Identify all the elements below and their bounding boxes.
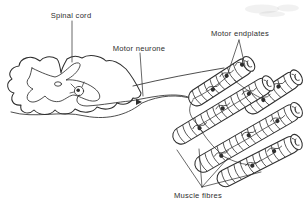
label-motor-neurone: Motor neurone (113, 44, 166, 53)
label-motor-endplates: Motor endplates (211, 29, 269, 38)
label-spinal-cord: Spinal cord (51, 11, 92, 20)
cell-nucleus (76, 88, 80, 92)
leader-motor-neurone (140, 53, 143, 96)
neuromuscular-junction-figure: Spinal cord Motor neurone Motor endplate… (0, 0, 308, 208)
diagram-canvas: Spinal cord Motor neurone Motor endplate… (0, 0, 308, 208)
central-canal (55, 82, 62, 86)
spinal-cord-drawing (8, 56, 193, 118)
label-muscle-fibres: Muscle fibres (174, 191, 222, 200)
watermark-smudge (245, 5, 299, 18)
